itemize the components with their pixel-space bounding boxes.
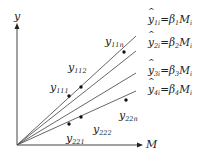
point-y221	[67, 122, 70, 125]
regression-line-1	[17, 36, 136, 145]
x-axis-label: M	[146, 139, 157, 150]
label-y22n: y22n	[119, 110, 138, 123]
point-y11n	[122, 50, 125, 53]
y-axis-arrow-icon	[15, 23, 20, 29]
point-y222	[79, 115, 82, 118]
equation-4: y4i=β4Mi	[148, 84, 192, 97]
y-axis-label: y	[14, 11, 20, 22]
equation-2: y2i=β2Mi	[148, 37, 192, 50]
label-y111: y111	[50, 82, 69, 95]
label-y222: y222	[93, 124, 112, 137]
label-y11n: y11n	[105, 36, 124, 49]
x-axis-arrow-icon	[137, 143, 143, 148]
point-y22n	[124, 98, 127, 101]
equation-1: y1i=β1Mi	[148, 14, 192, 27]
label-y221: y221	[66, 133, 85, 146]
label-y112: y112	[68, 62, 87, 75]
point-y112	[79, 85, 82, 88]
